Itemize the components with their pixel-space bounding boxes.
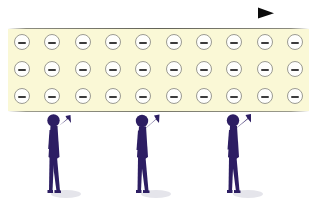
minus-sign xyxy=(48,42,56,45)
electron-icon xyxy=(44,88,60,104)
figure-body xyxy=(47,114,71,193)
electron-icon xyxy=(196,88,212,104)
electron-icon xyxy=(14,88,30,104)
minus-sign xyxy=(200,69,208,72)
conductor-band xyxy=(8,29,309,111)
electron-icon xyxy=(135,34,151,50)
person-middle xyxy=(128,111,174,203)
electron-icon xyxy=(75,61,91,77)
stick-figure-icon xyxy=(40,111,86,203)
electron-icon xyxy=(105,88,121,104)
electron-icon xyxy=(166,61,182,77)
minus-sign xyxy=(261,96,269,99)
arrow-svg xyxy=(0,0,317,30)
electron-icon xyxy=(44,34,60,50)
minus-sign xyxy=(109,42,117,45)
minus-sign xyxy=(261,42,269,45)
electron-icon xyxy=(135,61,151,77)
electron-icon xyxy=(75,34,91,50)
current-direction-arrow xyxy=(0,0,317,30)
minus-sign xyxy=(291,42,299,45)
electron-icon xyxy=(226,61,242,77)
minus-sign xyxy=(18,42,26,45)
minus-sign xyxy=(230,96,238,99)
electron-icon xyxy=(257,34,273,50)
minus-sign xyxy=(139,42,147,45)
electron-icon xyxy=(135,88,151,104)
minus-sign xyxy=(230,69,238,72)
electron-icon xyxy=(287,88,303,104)
electron-row xyxy=(8,34,309,50)
minus-sign xyxy=(79,96,87,99)
electron-icon xyxy=(14,61,30,77)
electron-icon xyxy=(226,34,242,50)
figure-body xyxy=(227,114,251,193)
minus-sign xyxy=(170,96,178,99)
electron-icon xyxy=(196,34,212,50)
person-left xyxy=(40,111,86,203)
stick-figure-icon xyxy=(218,111,264,203)
electron-icon xyxy=(226,88,242,104)
minus-sign xyxy=(291,96,299,99)
person-right xyxy=(218,111,264,203)
electron-icon xyxy=(14,34,30,50)
minus-sign xyxy=(139,96,147,99)
observer-figures xyxy=(0,111,317,203)
stick-figure-icon xyxy=(128,111,174,203)
electron-icon xyxy=(166,88,182,104)
minus-sign xyxy=(79,69,87,72)
minus-sign xyxy=(139,69,147,72)
minus-sign xyxy=(200,96,208,99)
minus-sign xyxy=(18,96,26,99)
electron-row xyxy=(8,61,309,77)
minus-sign xyxy=(261,69,269,72)
minus-sign xyxy=(48,96,56,99)
arrow-head-icon xyxy=(258,8,274,19)
electron-icon xyxy=(287,61,303,77)
minus-sign xyxy=(109,96,117,99)
minus-sign xyxy=(170,69,178,72)
minus-sign xyxy=(48,69,56,72)
electron-icon xyxy=(287,34,303,50)
minus-sign xyxy=(291,69,299,72)
electron-icon xyxy=(257,61,273,77)
minus-sign xyxy=(79,42,87,45)
minus-sign xyxy=(109,69,117,72)
electron-icon xyxy=(257,88,273,104)
minus-sign xyxy=(170,42,178,45)
electron-icon xyxy=(105,61,121,77)
minus-sign xyxy=(200,42,208,45)
figure-body xyxy=(136,115,160,194)
electron-icon xyxy=(196,61,212,77)
physics-current-illustration xyxy=(0,0,317,203)
electron-icon xyxy=(166,34,182,50)
minus-sign xyxy=(18,69,26,72)
minus-sign xyxy=(230,42,238,45)
electron-row xyxy=(8,88,309,104)
electron-icon xyxy=(105,34,121,50)
electron-icon xyxy=(75,88,91,104)
electron-icon xyxy=(44,61,60,77)
electron-grid xyxy=(8,29,309,111)
